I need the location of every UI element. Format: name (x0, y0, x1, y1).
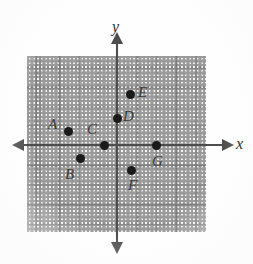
point-label-a: A (48, 117, 57, 132)
point-g (152, 141, 161, 150)
point-label-c: C (87, 122, 97, 137)
point-c (100, 141, 109, 150)
axes-group (0, 0, 253, 264)
y-axis-label: y (112, 19, 119, 35)
point-f (127, 166, 136, 175)
point-label-b: B (65, 167, 74, 182)
x-axis-arrow-right (222, 139, 234, 151)
point-e (126, 90, 135, 99)
point-label-e: E (138, 85, 147, 100)
x-axis-label: x (236, 136, 243, 152)
point-label-g: G (152, 154, 163, 169)
x-axis-arrow-left (12, 139, 24, 151)
y-axis-arrow-down (111, 242, 123, 254)
point-a (64, 127, 73, 136)
point-label-f: F (128, 178, 137, 193)
coordinate-plane-figure: x y ABCDEFG (0, 0, 253, 264)
point-label-d: D (123, 109, 134, 124)
point-b (76, 154, 85, 163)
point-d (113, 114, 122, 123)
